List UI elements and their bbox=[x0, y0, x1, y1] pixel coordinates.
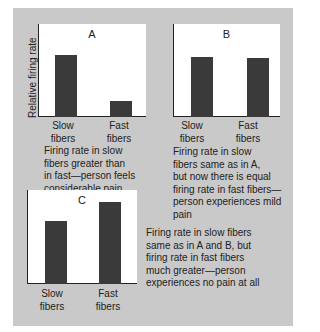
chart-c-bar-fast bbox=[99, 202, 121, 284]
chart-a-xlabel-slow: Slow fibers bbox=[38, 120, 88, 145]
chart-b: B bbox=[173, 24, 280, 117]
chart-a-xlabel-fast: Fast fibers bbox=[94, 120, 144, 145]
chart-c-bar-slow bbox=[45, 221, 67, 284]
chart-a-bar-slow bbox=[55, 55, 77, 117]
chart-b-xlabel-slow: Slow fibers bbox=[167, 120, 217, 145]
chart-b-xlabel-fast: Fast fibers bbox=[223, 120, 273, 145]
chart-c: C bbox=[27, 190, 137, 284]
chart-b-caption: Firing rate in slow fibers same as in A,… bbox=[173, 146, 281, 221]
y-axis-label: Relative firing rate bbox=[27, 37, 38, 118]
chart-a-caption: Firing rate in slow fibers greater than … bbox=[44, 145, 135, 195]
chart-b-bar-fast bbox=[247, 58, 269, 117]
chart-a-title: A bbox=[38, 28, 146, 40]
chart-b-bar-slow bbox=[191, 57, 213, 117]
chart-b-title: B bbox=[173, 28, 280, 40]
chart-c-caption: Firing rate in slow fibers same as in A … bbox=[146, 227, 259, 290]
chart-a-bar-fast bbox=[110, 101, 132, 117]
chart-c-xlabel-slow: Slow fibers bbox=[27, 288, 77, 313]
chart-c-xlabel-fast: Fast fibers bbox=[83, 288, 133, 313]
chart-a: A bbox=[38, 24, 146, 117]
